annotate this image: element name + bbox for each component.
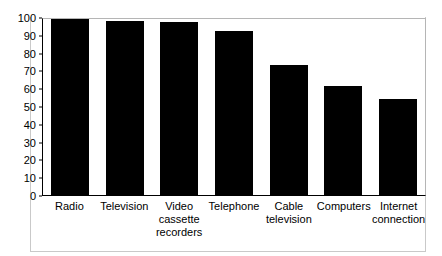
x-axis-labels: RadioTelevisionVideocassetterecordersTel…: [42, 200, 426, 239]
y-axis-tick-label: 60: [24, 84, 36, 95]
x-axis-label: Cabletelevision: [261, 200, 316, 226]
x-axis-label: Radio: [42, 200, 97, 213]
x-axis-label-line: Telephone: [207, 200, 262, 213]
bar-chart-figure: 0102030405060708090100 RadioTelevisionVi…: [0, 0, 442, 256]
y-axis-tick-label: 30: [24, 137, 36, 148]
y-axis-tick-label: 0: [30, 191, 36, 202]
x-axis-label-line: television: [261, 213, 316, 226]
x-axis-label-line: Cable: [261, 200, 316, 213]
x-axis-label-line: connection: [371, 213, 426, 226]
x-axis-label-line: recorders: [152, 226, 207, 239]
y-axis-tick-label: 70: [24, 66, 36, 77]
x-axis-label-line: Radio: [42, 200, 97, 213]
x-axis-label-line: Internet: [371, 200, 426, 213]
x-axis-label: Internetconnection: [371, 200, 426, 226]
x-axis-label-line: Video: [152, 200, 207, 213]
bar-series: [43, 19, 425, 195]
bar: [160, 22, 198, 195]
y-axis-tick-label: 80: [24, 48, 36, 59]
y-axis: 0102030405060708090100: [0, 18, 42, 196]
y-axis-tick-label: 50: [24, 102, 36, 113]
x-axis-label-line: Computers: [316, 200, 371, 213]
y-axis-tick-label: 100: [18, 13, 36, 24]
bar: [106, 21, 144, 195]
bar: [379, 99, 417, 195]
bar: [51, 19, 89, 195]
x-axis-label: Television: [97, 200, 152, 213]
x-axis-label: Computers: [316, 200, 371, 213]
y-axis-tick-label: 90: [24, 30, 36, 41]
y-axis-tick-label: 20: [24, 155, 36, 166]
bar: [270, 65, 308, 195]
plot-area: [42, 18, 426, 196]
bar: [324, 86, 362, 195]
x-axis-label-line: Television: [97, 200, 152, 213]
x-axis-label: Telephone: [207, 200, 262, 213]
x-axis-label: Videocassetterecorders: [152, 200, 207, 239]
y-axis-tick-label: 40: [24, 119, 36, 130]
y-axis-tick-label: 10: [24, 173, 36, 184]
bar: [215, 31, 253, 195]
x-axis-label-line: cassette: [152, 213, 207, 226]
